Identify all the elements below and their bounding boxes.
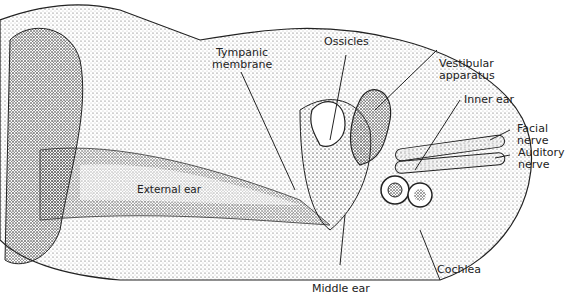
label-facial-nerve: Facial nerve	[517, 123, 549, 147]
label-text: apparatus	[439, 70, 495, 82]
label-inner-ear: Inner ear	[464, 94, 514, 106]
label-vestibular-apparatus: Vestibular apparatus	[439, 58, 495, 82]
ear-illustration	[0, 0, 572, 307]
label-ossicles: Ossicles	[324, 36, 369, 48]
label-middle-ear: Middle ear	[312, 283, 370, 295]
label-text: membrane	[212, 59, 272, 71]
ear-anatomy-diagram: Tympanic membrane Ossicles Vestibular ap…	[0, 0, 572, 307]
label-external-ear: External ear	[137, 183, 201, 195]
label-text: nerve	[518, 159, 565, 171]
label-tympanic-membrane: Tympanic membrane	[212, 47, 272, 71]
label-cochlea: Cochlea	[437, 264, 481, 276]
label-auditory-nerve: Auditory nerve	[518, 147, 565, 171]
